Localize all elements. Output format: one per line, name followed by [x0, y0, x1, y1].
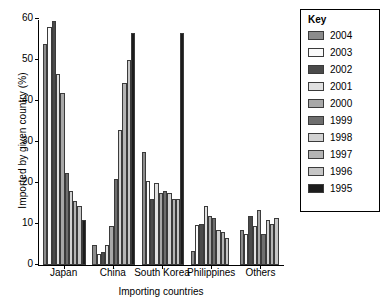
legend-rows: 2004200320022001200019991998199719961995	[308, 27, 379, 197]
bar-philippines-1996	[225, 238, 229, 265]
legend: Key 200420032002200120001999199819971996…	[300, 9, 380, 212]
y-tick-label: 30	[22, 135, 33, 146]
legend-swatch-1995	[308, 184, 324, 193]
bar-group-japan	[43, 20, 86, 265]
x-tick-label-china: China	[100, 267, 126, 278]
x-tick-label-others: Others	[245, 267, 275, 278]
legend-item-1996[interactable]: 1996	[308, 163, 379, 180]
legend-label-2001: 2001	[330, 81, 352, 92]
bar-group-philippines	[191, 20, 234, 265]
legend-label-2002: 2002	[330, 64, 352, 75]
legend-label-1998: 1998	[330, 132, 352, 143]
legend-title: Key	[308, 14, 379, 25]
legend-swatch-2003	[308, 48, 324, 57]
legend-item-1997[interactable]: 1997	[308, 146, 379, 163]
legend-label-1996: 1996	[330, 166, 352, 177]
legend-swatch-2004	[308, 31, 324, 40]
legend-item-1998[interactable]: 1998	[308, 129, 379, 146]
y-tick-label: 60	[22, 12, 33, 23]
bar-others-1996	[274, 218, 278, 265]
legend-item-2003[interactable]: 2003	[308, 44, 379, 61]
y-tick: 60	[35, 18, 39, 19]
legend-item-2002[interactable]: 2002	[308, 61, 379, 78]
bar-group-others	[240, 20, 283, 265]
bar-group-china	[92, 20, 135, 265]
legend-item-2000[interactable]: 2000	[308, 95, 379, 112]
legend-swatch-2000	[308, 99, 324, 108]
y-tick-label: 20	[22, 176, 33, 187]
bar-south-korea-1995	[180, 33, 184, 265]
x-tick-label-japan: Japan	[50, 267, 77, 278]
legend-swatch-2001	[308, 82, 324, 91]
y-tick-label: 40	[22, 94, 33, 105]
plot-area: 0102030405060 JapanChinaSouth KoreaPhili…	[38, 20, 284, 266]
y-tick-label: 0	[27, 258, 33, 269]
legend-swatch-1998	[308, 133, 324, 142]
legend-item-2001[interactable]: 2001	[308, 78, 379, 95]
legend-item-2004[interactable]: 2004	[308, 27, 379, 44]
legend-item-1995[interactable]: 1995	[308, 180, 379, 197]
bar-groups: JapanChinaSouth KoreaPhilippinesOthers	[39, 20, 284, 265]
y-tick-label: 10	[22, 217, 33, 228]
legend-label-2003: 2003	[330, 47, 352, 58]
bar-japan-1995	[82, 220, 86, 265]
bar-chart-figure: Imported by given country (%) 0102030405…	[0, 0, 389, 306]
legend-label-1999: 1999	[330, 115, 352, 126]
legend-label-2004: 2004	[330, 30, 352, 41]
y-tick-label: 50	[22, 53, 33, 64]
legend-swatch-1997	[308, 150, 324, 159]
legend-label-2000: 2000	[330, 98, 352, 109]
bar-china-1995	[131, 33, 135, 265]
legend-swatch-2002	[308, 65, 324, 74]
legend-swatch-1996	[308, 167, 324, 176]
x-tick-label-south-korea: South Korea	[134, 267, 190, 278]
legend-label-1997: 1997	[330, 149, 352, 160]
x-tick-label-philippines: Philippines	[187, 267, 235, 278]
bar-group-south-korea	[142, 20, 185, 265]
x-axis-title: Importing countries	[38, 286, 284, 297]
legend-item-1999[interactable]: 1999	[308, 112, 379, 129]
legend-label-1995: 1995	[330, 183, 352, 194]
legend-swatch-1999	[308, 116, 324, 125]
